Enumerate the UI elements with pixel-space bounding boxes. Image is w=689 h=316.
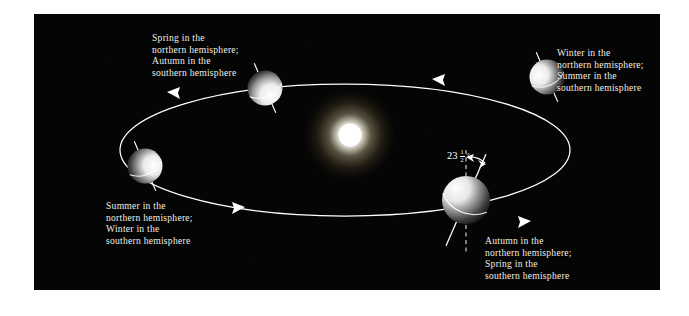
- caption-spring-line-1: Spring in the: [152, 32, 239, 44]
- tilt-fraction: 1 2: [460, 149, 465, 163]
- caption-autumn: Autumn in the northern hemisphere; Sprin…: [485, 235, 572, 281]
- caption-winter-line-1: Winter in the: [557, 47, 644, 59]
- orbit-arrow-upper-left: [167, 87, 180, 99]
- caption-winter-line-2: northern hemisphere;: [557, 59, 644, 71]
- tilt-whole-number: 23: [447, 151, 458, 161]
- earth-globe-spring: [248, 71, 283, 106]
- caption-summer-line-4: southern hemisphere: [106, 235, 193, 247]
- caption-summer-line-3: Winter in the: [106, 223, 193, 235]
- caption-summer-line-1: Summer in the: [106, 200, 193, 212]
- caption-winter-line-4: southern hemisphere: [557, 82, 644, 94]
- star-field-panel: 23 1 2 ° Spring in the northern hemisphe…: [34, 14, 660, 290]
- figure-canvas: 23 1 2 ° Spring in the northern hemisphe…: [0, 0, 689, 316]
- caption-winter-line-3: Summer in the: [557, 70, 644, 82]
- tilt-denominator: 2: [460, 157, 463, 164]
- caption-autumn-line-3: Spring in the: [485, 258, 572, 270]
- earth-spring: [248, 63, 285, 113]
- caption-spring: Spring in the northern hemisphere; Autum…: [152, 32, 239, 78]
- caption-spring-line-3: Autumn in the: [152, 55, 239, 67]
- caption-autumn-line-4: southern hemisphere: [485, 270, 572, 282]
- tilt-numerator: 1: [460, 149, 463, 156]
- tilt-angle-label: 23 1 2 °: [447, 149, 470, 163]
- earth-autumn: [439, 150, 490, 252]
- caption-winter: Winter in the northern hemisphere; Summe…: [557, 47, 644, 93]
- caption-spring-line-2: northern hemisphere;: [152, 44, 239, 56]
- caption-autumn-line-1: Autumn in the: [485, 235, 572, 247]
- earth-globe-summer: [128, 149, 163, 184]
- caption-spring-line-4: southern hemisphere: [152, 67, 239, 79]
- earth-summer: [128, 141, 165, 191]
- caption-summer-line-2: northern hemisphere;: [106, 212, 193, 224]
- caption-summer: Summer in the northern hemisphere; Winte…: [106, 200, 193, 246]
- caption-autumn-line-2: northern hemisphere;: [485, 247, 572, 259]
- earth-globe-autumn: [442, 176, 490, 224]
- orbit-arrow-upper-right: [432, 74, 445, 86]
- degree-symbol: °: [467, 151, 470, 161]
- sun: [304, 89, 396, 181]
- orbit-arrow-lower-right: [518, 216, 531, 228]
